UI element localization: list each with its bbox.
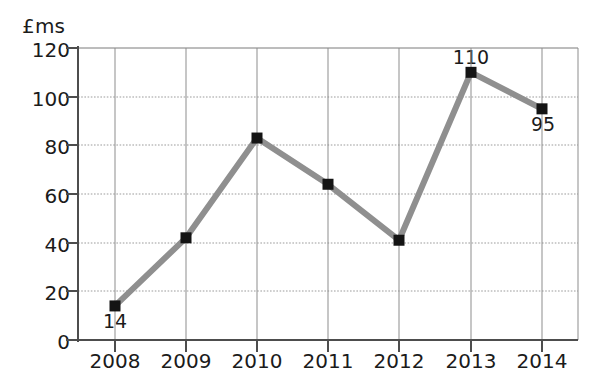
y-axis-ticks	[66, 48, 78, 340]
data-point-2014	[537, 103, 548, 114]
data-point-2009	[181, 232, 192, 243]
chart-canvas	[0, 0, 600, 392]
x-axis-ticks	[115, 340, 542, 352]
data-point-2008	[110, 300, 121, 311]
data-point-2010	[252, 133, 263, 144]
data-point-2012	[394, 235, 405, 246]
line-chart: £ms 120 100 80 60 40 20 0 2008 2009 2010…	[0, 0, 600, 392]
data-point-2011	[323, 179, 334, 190]
data-point-2013	[466, 67, 477, 78]
